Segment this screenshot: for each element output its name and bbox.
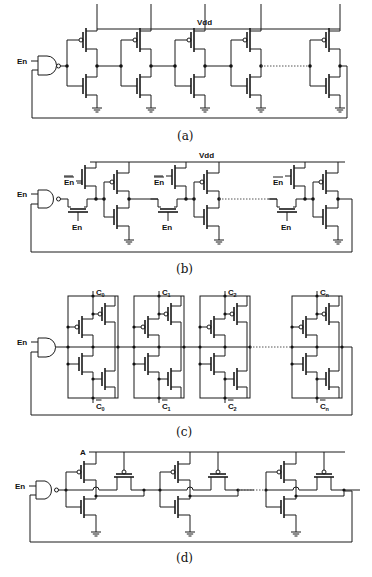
and-gate: [38, 338, 56, 357]
svg-text:n: n: [326, 406, 330, 412]
feedback-wire: [32, 66, 347, 118]
panel-a: Vdd En (a): [17, 4, 347, 143]
caption-b: (b): [176, 262, 193, 276]
svg-text:0: 0: [102, 406, 105, 412]
caption-a: (a): [177, 129, 194, 143]
en-label: En: [17, 338, 27, 347]
caption-c: (c): [176, 425, 192, 439]
en-label: En: [15, 482, 25, 491]
svg-text:1: 1: [168, 292, 171, 298]
vdd-label: Vdd: [199, 151, 214, 160]
nand-gate: [38, 56, 57, 75]
en-label: En: [17, 190, 27, 199]
svg-text:0: 0: [102, 292, 105, 298]
node-a-label: A: [80, 448, 86, 457]
svg-text:En: En: [273, 178, 283, 187]
caption-d: (d): [176, 551, 193, 565]
en-label: En: [17, 57, 27, 66]
svg-text:En: En: [72, 223, 82, 232]
panel-d: A En: [15, 448, 360, 565]
ring-oscillator-figure: Vdd En (a) Vdd En: [0, 0, 372, 577]
svg-text:2: 2: [234, 406, 237, 412]
panel-c: En: [17, 288, 352, 439]
panel-b: Vdd En En En: [17, 151, 352, 276]
svg-text:2: 2: [234, 292, 237, 298]
svg-text:En: En: [64, 178, 74, 187]
svg-text:En: En: [281, 223, 291, 232]
svg-text:n: n: [326, 292, 330, 298]
svg-text:En: En: [154, 178, 164, 187]
nand-gate: [38, 190, 53, 208]
nand-gate: [36, 481, 51, 499]
svg-text:En: En: [162, 223, 172, 232]
svg-text:1: 1: [168, 406, 171, 412]
